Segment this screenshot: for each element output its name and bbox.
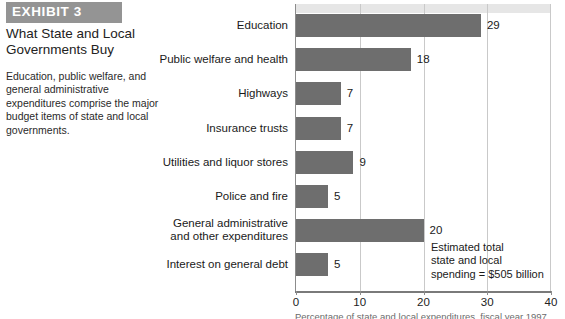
tick-mark-40 [551, 291, 552, 295]
bar-value-label: 7 [347, 82, 353, 105]
bar-value-label: 9 [359, 151, 365, 174]
bar-value-label: 18 [417, 48, 430, 71]
bar-row: Utilities and liquor stores9 [178, 151, 565, 174]
bar-row: Education29 [178, 14, 565, 37]
gridline-10 [360, 4, 361, 291]
bar-value-label: 29 [487, 14, 500, 37]
category-label: General administrative and other expendi… [78, 217, 288, 243]
tick-mark-0 [296, 291, 297, 295]
bar-value-label: 5 [334, 253, 340, 276]
exhibit-banner-label: EXHIBIT 3 [12, 4, 82, 19]
bar-value-label: 7 [347, 117, 353, 140]
bar [296, 14, 481, 37]
bar-chart: Education29Public welfare and health18Hi… [178, 0, 565, 319]
bar [296, 117, 341, 140]
tick-mark-10 [360, 291, 361, 295]
bar-row: General administrative and other expendi… [178, 219, 565, 242]
tick-mark-30 [487, 291, 488, 295]
category-label: Education [78, 19, 288, 32]
tick-mark-20 [424, 291, 425, 295]
category-label: Highways [78, 87, 288, 100]
category-label: Public welfare and health [78, 53, 288, 66]
x-tick-label-30: 30 [481, 296, 494, 308]
category-label: Utilities and liquor stores [78, 156, 288, 169]
bar [296, 82, 341, 105]
category-label: Insurance trusts [78, 122, 288, 135]
x-tick-label-40: 40 [545, 296, 558, 308]
bar-row: Insurance trusts7 [178, 117, 565, 140]
category-label: Interest on general debt [78, 258, 288, 271]
x-tick-label-20: 20 [417, 296, 430, 308]
bar [296, 219, 424, 242]
x-tick-label-0: 0 [293, 296, 299, 308]
bar-row: Public welfare and health18 [178, 48, 565, 71]
bar [296, 253, 328, 276]
gridline-20 [424, 4, 425, 291]
bar-row: Highways7 [178, 82, 565, 105]
bar [296, 48, 411, 71]
bar [296, 185, 328, 208]
bar-value-label: 5 [334, 185, 340, 208]
chart-annotation: Estimated total state and local spending… [431, 241, 561, 281]
source-caption: Percentage of state and local expenditur… [295, 311, 565, 319]
category-label: Police and fire [78, 190, 288, 203]
x-tick-label-10: 10 [353, 296, 366, 308]
bar-value-label: 20 [430, 219, 443, 242]
bar [296, 151, 353, 174]
bar-row: Police and fire5 [178, 185, 565, 208]
